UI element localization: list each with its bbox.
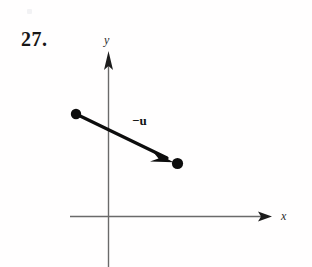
vector-initial-point-dot <box>71 109 81 119</box>
vector-arrowhead <box>150 151 174 163</box>
problem-number: 27. <box>21 29 48 49</box>
vector-terminal-point-dot <box>172 158 183 169</box>
x-axis-label: x <box>281 210 286 222</box>
y-axis-label: y <box>104 34 109 46</box>
vector-figure: 27. y x −u <box>0 0 312 267</box>
vector-label: −u <box>132 114 147 127</box>
